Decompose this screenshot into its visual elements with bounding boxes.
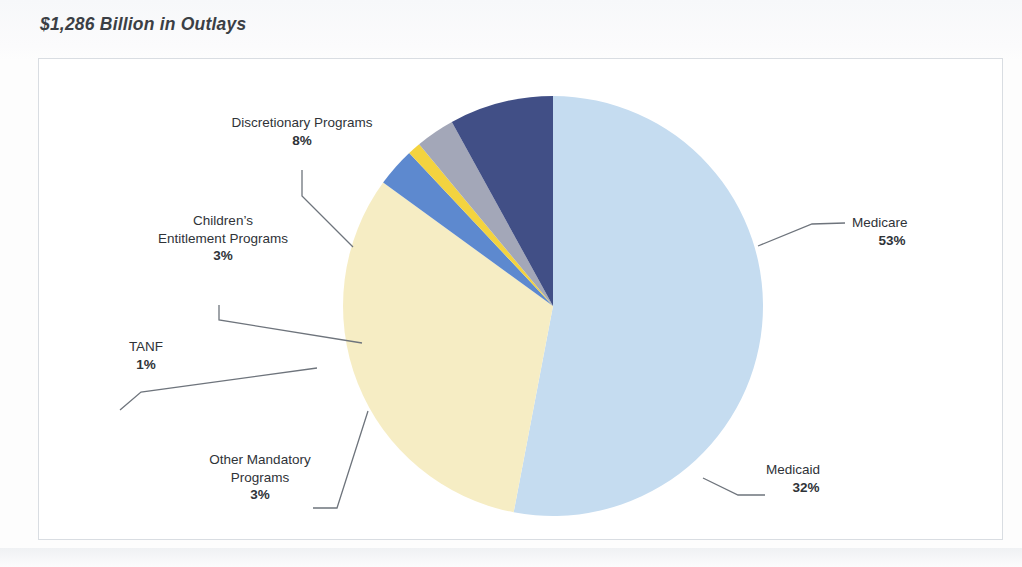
label-medicare-text: Medicare bbox=[852, 215, 908, 230]
label-tanf-text: TANF bbox=[129, 339, 163, 354]
leader-line-tanf bbox=[120, 368, 317, 410]
label-medicaid: Medicaid 32% bbox=[766, 461, 876, 496]
label-discretionary-pct: 8% bbox=[214, 132, 390, 150]
label-discretionary-programs: Discretionary Programs 8% bbox=[214, 114, 390, 149]
leader-line-children bbox=[219, 305, 362, 343]
label-children-text-line1: Children’s bbox=[193, 213, 253, 228]
label-tanf-pct: 1% bbox=[96, 356, 196, 374]
label-medicaid-text: Medicaid bbox=[766, 462, 820, 477]
label-medicare: Medicare 53% bbox=[852, 214, 962, 249]
leader-line-medicaid bbox=[703, 478, 765, 495]
leader-line-discretionary bbox=[302, 170, 353, 247]
label-other-text-line1: Other Mandatory bbox=[209, 452, 310, 467]
label-tanf: TANF 1% bbox=[96, 338, 196, 373]
label-children-pct: 3% bbox=[138, 247, 308, 265]
pie-slice-group bbox=[343, 96, 763, 516]
label-other-text-line2: Programs bbox=[231, 470, 290, 485]
leader-line-medicare bbox=[758, 223, 845, 246]
label-medicaid-pct: 32% bbox=[766, 479, 846, 497]
label-children-text-line2: Entitlement Programs bbox=[158, 231, 288, 246]
label-medicare-pct: 53% bbox=[852, 232, 932, 250]
label-children-entitlement-programs: Children’s Entitlement Programs 3% bbox=[138, 212, 308, 265]
label-other-mandatory-programs: Other Mandatory Programs 3% bbox=[190, 451, 330, 504]
label-other-pct: 3% bbox=[190, 486, 330, 504]
label-discretionary-text: Discretionary Programs bbox=[231, 115, 372, 130]
